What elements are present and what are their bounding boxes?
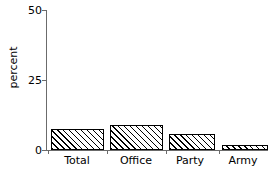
y-tick-50: 50 — [0, 10, 42, 11]
x-tick-mark-0 — [48, 150, 49, 154]
x-tick-label-army: Army — [218, 155, 268, 167]
y-tick-label-25: 25 — [18, 75, 42, 86]
x-tick-mark-3 — [219, 150, 220, 154]
y-tick-25: 25 — [0, 80, 42, 81]
plot-area: percent 50 25 0 Total Office Party Army — [0, 0, 276, 177]
y-tick-0: 0 — [0, 150, 42, 151]
bar-office — [110, 125, 163, 150]
y-axis-line — [46, 10, 47, 150]
x-axis-line — [46, 150, 268, 151]
x-tick-mark-2 — [166, 150, 167, 154]
x-tick-mark-1 — [107, 150, 108, 154]
x-tick-label-party: Party — [163, 155, 217, 167]
bar-chart: percent 50 25 0 Total Office Party Army — [0, 0, 276, 177]
x-tick-label-total: Total — [48, 155, 106, 167]
y-tick-mark-25 — [42, 80, 46, 81]
y-tick-label-0: 0 — [18, 145, 42, 156]
bar-party — [169, 134, 215, 150]
bar-total — [51, 129, 104, 150]
y-tick-label-50: 50 — [18, 5, 42, 16]
y-tick-mark-50 — [42, 10, 46, 11]
x-tick-label-office: Office — [107, 155, 165, 167]
y-axis-title: percent — [8, 38, 19, 98]
